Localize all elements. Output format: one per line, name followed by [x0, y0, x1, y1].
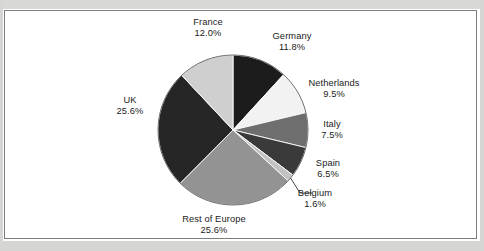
pie-label-netherlands-value: 9.5%	[296, 89, 372, 100]
pie-label-uk-value: 25.6%	[105, 106, 155, 117]
pie-label-rest-of-europe: Rest of Europe 25.6%	[159, 214, 269, 236]
pie-label-belgium: Belgium 1.6%	[286, 188, 344, 210]
pie-label-netherlands: Netherlands 9.5%	[296, 78, 372, 100]
pie-label-germany-name: Germany	[256, 31, 328, 42]
pie-label-uk-name: UK	[105, 95, 155, 106]
pie-label-italy: Italy 7.5%	[307, 119, 357, 141]
pie-label-uk: UK 25.6%	[105, 95, 155, 117]
pie-label-belgium-name: Belgium	[286, 188, 344, 199]
pie-label-france: France 12.0%	[175, 17, 241, 39]
pie-label-belgium-value: 1.6%	[286, 199, 344, 210]
pie-label-spain: Spain 6.5%	[303, 158, 353, 180]
pie-label-italy-name: Italy	[307, 119, 357, 130]
pie-label-netherlands-name: Netherlands	[296, 78, 372, 89]
pie-label-rest-of-europe-name: Rest of Europe	[159, 214, 269, 225]
pie-label-italy-value: 7.5%	[307, 130, 357, 141]
pie-slice-group	[158, 55, 308, 205]
pie-label-spain-value: 6.5%	[303, 169, 353, 180]
pie-label-germany: Germany 11.8%	[256, 31, 328, 53]
pie-label-france-value: 12.0%	[175, 28, 241, 39]
figure-root: France 12.0% Germany 11.8% Netherlands 9…	[0, 0, 484, 251]
pie-label-france-name: France	[175, 17, 241, 28]
pie-label-germany-value: 11.8%	[256, 42, 328, 53]
pie-label-spain-name: Spain	[303, 158, 353, 169]
pie-label-rest-of-europe-value: 25.6%	[159, 225, 269, 236]
